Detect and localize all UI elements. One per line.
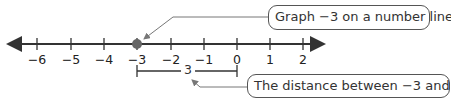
tick-label: −1 [195, 52, 213, 67]
tick-label: −6 [28, 52, 46, 67]
top-callout-leader [144, 17, 268, 39]
plotted-point [132, 39, 142, 49]
top-callout: Graph −3 on a number line. [268, 5, 430, 30]
tick-label: −3 [128, 52, 146, 67]
tick-label: 2 [299, 52, 307, 67]
tick-label: 1 [266, 52, 274, 67]
number-line-diagram: −6−5−4−3−2−1012 3 Graph −3 on a number l… [0, 0, 451, 103]
tick-label: −2 [162, 52, 180, 67]
bottom-callout-leader [192, 80, 247, 87]
tick-label: 0 [233, 52, 241, 67]
distance-label: 3 [181, 62, 195, 77]
tick-label: −5 [62, 52, 80, 67]
bottom-callout: The distance between −3 and 0 is 3. [247, 74, 450, 98]
tick-label: −4 [95, 52, 113, 67]
